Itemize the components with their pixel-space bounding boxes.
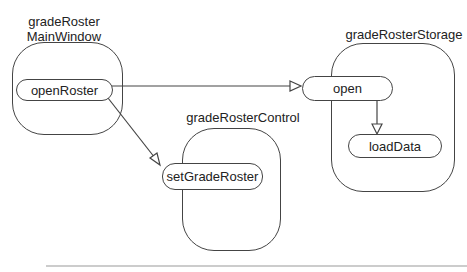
object-title-text: gradeRosterStorage <box>345 27 462 42</box>
arrowhead-icon <box>290 81 301 91</box>
method-label: open <box>333 81 362 96</box>
method-openroster[interactable]: openRoster <box>16 79 113 101</box>
object-title-control: gradeRosterControl <box>178 110 308 125</box>
method-label: loadData <box>369 139 421 154</box>
method-setgraderoster[interactable]: setGradeRoster <box>162 163 263 190</box>
method-open[interactable]: open <box>302 76 393 101</box>
method-loaddata[interactable]: loadData <box>348 134 442 158</box>
arrowhead-icon <box>150 153 160 165</box>
object-title-text: gradeRosterControl <box>186 110 299 125</box>
method-label: openRoster <box>31 83 98 98</box>
method-label: setGradeRoster <box>167 169 259 184</box>
object-title-storage: gradeRosterStorage <box>339 27 467 42</box>
object-box-storage[interactable] <box>331 43 455 192</box>
object-title-line1: gradeRoster <box>14 14 114 29</box>
object-title-main: gradeRoster MainWindow <box>14 14 114 44</box>
